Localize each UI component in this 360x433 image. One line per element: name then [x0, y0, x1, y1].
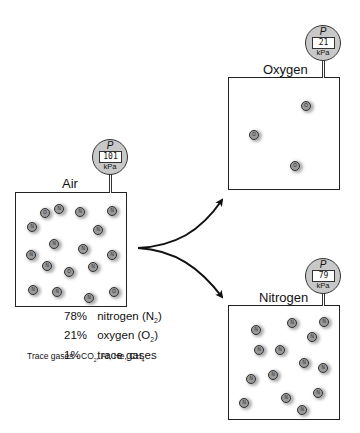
- nitrogen-molecule-icon: N: [78, 244, 88, 254]
- nitrogen-molecule-icon: N: [27, 222, 37, 232]
- nitrogen-molecule-icon: N: [28, 285, 38, 295]
- nitrogen-molecule-icon: N: [26, 250, 36, 260]
- nitrogen-molecule-icon: N: [251, 325, 261, 335]
- oxygen-molecule-icon: O: [40, 208, 50, 218]
- pressure-symbol: P: [306, 259, 340, 270]
- nitrogen-molecule-icon: N: [84, 293, 94, 303]
- nitrogen-molecule-icon: N: [54, 204, 64, 214]
- pressure-symbol: P: [93, 140, 127, 151]
- trace-gases-note: Trace gases - CO2, Ar, He, CH4: [27, 351, 144, 363]
- nitrogen-molecule-icon: N: [107, 250, 117, 260]
- air-gauge-stem: [109, 173, 112, 193]
- arrow-to-nitrogen: [138, 248, 222, 297]
- pressure-unit: kPa: [306, 281, 340, 290]
- arrow-to-oxygen: [138, 200, 222, 248]
- pressure-unit: kPa: [306, 48, 340, 57]
- nitrogen-molecule-icon: N: [107, 206, 117, 216]
- nitrogen-molecule-icon: N: [281, 393, 291, 403]
- oxygen-molecule-icon: O: [109, 287, 119, 297]
- oxygen-container-box: [228, 77, 340, 190]
- nitrogen-molecule-icon: N: [52, 287, 62, 297]
- nitrogen-molecule-icon: N: [319, 317, 329, 327]
- nitrogen-molecule-icon: N: [268, 370, 278, 380]
- pressure-symbol: P: [306, 26, 340, 37]
- nitrogen-molecule-icon: N: [318, 363, 328, 373]
- nitrogen-gauge-stem: [322, 292, 325, 306]
- nitrogen-molecule-icon: N: [313, 388, 323, 398]
- nitrogen-molecule-icon: N: [254, 345, 264, 355]
- nitrogen-molecule-icon: N: [93, 225, 103, 235]
- air-pressure-gauge-icon: P101kPa: [92, 139, 128, 175]
- composition-row-nitrogen: 78% nitrogen (N2): [64, 309, 162, 328]
- nitrogen-molecule-icon: N: [287, 318, 297, 328]
- nitrogen-molecule-icon: N: [239, 398, 249, 408]
- nitrogen-molecule-icon: N: [88, 262, 98, 272]
- nitrogen-molecule-icon: N: [49, 239, 59, 249]
- oxygen-molecule-icon: O: [301, 101, 311, 111]
- nitrogen-molecule-icon: N: [246, 374, 256, 384]
- oxygen-molecule-icon: O: [64, 267, 74, 277]
- oxygen-gauge-stem: [322, 59, 325, 78]
- oxygen-molecule-icon: O: [249, 130, 259, 140]
- oxygen-pressure-gauge-icon: P21kPa: [305, 25, 341, 61]
- nitrogen-label: Nitrogen: [259, 290, 308, 305]
- nitrogen-molecule-icon: N: [297, 405, 307, 415]
- composition-row-oxygen: 21% oxygen (O2): [64, 328, 162, 347]
- nitrogen-molecule-icon: N: [42, 261, 52, 271]
- nitrogen-molecule-icon: N: [307, 332, 317, 342]
- pressure-unit: kPa: [93, 162, 127, 171]
- air-label: Air: [62, 176, 78, 191]
- nitrogen-pressure-gauge-icon: P79kPa: [305, 258, 341, 294]
- nitrogen-molecule-icon: N: [275, 345, 285, 355]
- oxygen-molecule-icon: O: [290, 161, 300, 171]
- oxygen-label: Oxygen: [263, 62, 308, 77]
- nitrogen-molecule-icon: N: [75, 207, 85, 217]
- nitrogen-molecule-icon: N: [299, 358, 309, 368]
